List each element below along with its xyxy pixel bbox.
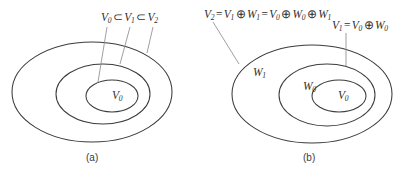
oplus-operator-3: ⊕ bbox=[306, 8, 318, 20]
subset-operator-2: ⊂ bbox=[135, 11, 147, 23]
panel-b-shapes bbox=[232, 45, 392, 143]
panel-a-middle-ellipse bbox=[56, 64, 150, 124]
panel-a-chain-formula: V0⊂V1⊂V2 bbox=[101, 12, 158, 24]
oplus-operator: ⊕ bbox=[363, 19, 375, 31]
equals-sign: = bbox=[343, 19, 352, 31]
formula-term-w1b: W1 bbox=[318, 8, 331, 20]
subset-operator-1: ⊂ bbox=[112, 11, 124, 23]
panel-a-outer-ellipse bbox=[12, 42, 172, 142]
panel-b-label-w1: W1 bbox=[253, 67, 266, 79]
panel-b-leaders bbox=[213, 22, 346, 66]
panel-a-inner-label: V0 bbox=[112, 90, 123, 102]
panel-b-middle-ellipse bbox=[279, 64, 375, 126]
panel-b-caption: (b) bbox=[303, 153, 315, 163]
formula-term-v0: V0 bbox=[269, 8, 280, 20]
formula-lhs-v1: V1 bbox=[332, 19, 343, 31]
equals-1: = bbox=[215, 8, 224, 20]
panel-b-label-v0: V0 bbox=[338, 90, 349, 102]
formula-term-v0: V0 bbox=[352, 19, 363, 31]
formula-term-w0: W0 bbox=[375, 19, 388, 31]
equals-2: = bbox=[260, 8, 269, 20]
leader-line-v2 bbox=[147, 27, 153, 53]
leader-line-v0 bbox=[98, 27, 107, 82]
formula-term-v1: V1 bbox=[124, 11, 135, 23]
oplus-operator-1: ⊕ bbox=[235, 8, 247, 20]
formula-lhs-v2: V2 bbox=[204, 8, 215, 20]
panel-b-top-formula: V2=V1⊕W1=V0⊕W0⊕W1 bbox=[204, 9, 332, 21]
formula-term-v2: V2 bbox=[147, 11, 158, 23]
figure-root: V0⊂V1⊂V2 V0 (a) V2=V1⊕W1=V0⊕W0⊕W1 V1=V0⊕… bbox=[0, 0, 415, 173]
panel-a-shapes bbox=[12, 42, 172, 142]
leader-line-v2-outer bbox=[213, 22, 239, 64]
panel-a-caption: (a) bbox=[86, 153, 98, 163]
formula-term-v1: V1 bbox=[224, 8, 235, 20]
oplus-operator-2: ⊕ bbox=[280, 8, 292, 20]
panel-b-right-formula: V1=V0⊕W0 bbox=[332, 20, 388, 32]
formula-term-w1: W1 bbox=[247, 8, 260, 20]
formula-term-v0: V0 bbox=[101, 11, 112, 23]
panel-b-label-w0: W0 bbox=[303, 81, 316, 93]
formula-term-w0: W0 bbox=[292, 8, 305, 20]
